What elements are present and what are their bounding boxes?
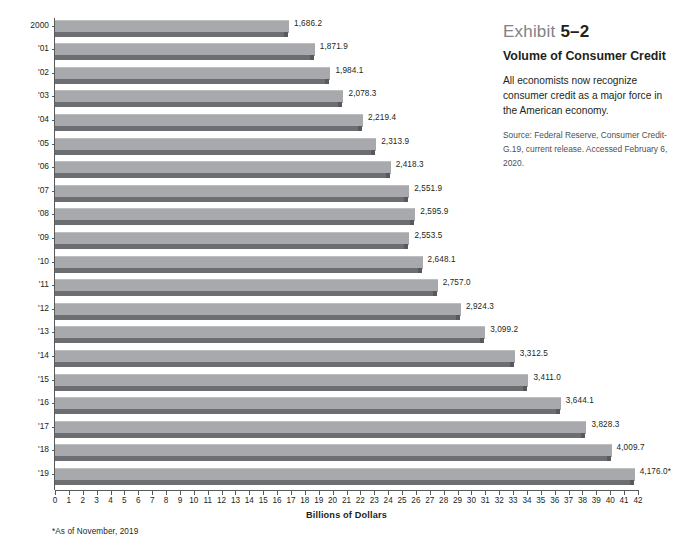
x-axis-tick <box>347 490 348 495</box>
x-axis-tick <box>499 490 500 495</box>
bar-row: '072,551.9 <box>55 183 638 207</box>
bar-shadow <box>55 362 510 367</box>
y-axis-tick-label: '09 <box>38 232 49 242</box>
bar-value-label: 2,078.3 <box>348 89 376 98</box>
x-axis-tick-label: 34 <box>522 496 531 505</box>
bar-value-label: 2,553.5 <box>414 231 442 240</box>
y-axis-tick-label: '08 <box>38 208 49 218</box>
bar-end-cap <box>607 456 611 461</box>
bar-row: '122,924.3 <box>55 301 638 325</box>
x-axis-tick-label: 5 <box>122 496 127 505</box>
bar-value-label: 2,313.9 <box>381 137 409 146</box>
bar-end-cap <box>581 433 585 438</box>
x-axis-tick-label: 23 <box>370 496 379 505</box>
x-axis-tick-label: 13 <box>231 496 240 505</box>
x-axis-tick-label: 7 <box>150 496 155 505</box>
y-axis-tick-label: '06 <box>38 161 49 171</box>
bar-shadow <box>55 268 418 273</box>
x-axis-tick <box>638 490 639 495</box>
y-axis-tick-label: '17 <box>38 421 49 431</box>
y-axis-tick-label: '16 <box>38 397 49 407</box>
caption-source: Source: Federal Reserve, Consumer Credit… <box>503 129 675 170</box>
bar-chart: 20001,686.2'011,871.9'021,984.1'032,078.… <box>0 0 480 557</box>
bar-end-cap <box>456 315 460 320</box>
bar-shadow <box>55 150 371 155</box>
bar-shadow <box>55 55 310 60</box>
bar-value-label: 3,644.1 <box>566 396 594 405</box>
x-axis-tick <box>194 490 195 495</box>
x-axis-tick-label: 22 <box>356 496 365 505</box>
x-axis-tick-label: 8 <box>164 496 169 505</box>
x-axis-tick-label: 20 <box>328 496 337 505</box>
y-axis-tick-label: '11 <box>39 279 49 289</box>
x-axis-tick <box>388 490 389 495</box>
bar-value-label: 3,411.0 <box>533 373 560 382</box>
y-axis-tick-label: '03 <box>38 90 49 100</box>
x-axis-tick <box>333 490 334 495</box>
bar-row: '173,828.3 <box>55 419 638 443</box>
bar-value-label: 3,828.3 <box>591 420 619 429</box>
x-axis-tick <box>416 490 417 495</box>
x-axis-tick <box>277 490 278 495</box>
x-axis-tick <box>208 490 209 495</box>
x-axis-tick-label: 35 <box>536 496 545 505</box>
bar-end-cap <box>523 386 527 391</box>
bar-value-label: 2,595.9 <box>420 207 448 216</box>
bar-shadow <box>55 220 410 225</box>
bar-value-label: 1,686.2 <box>294 19 322 28</box>
bar-shadow <box>55 79 325 84</box>
bar-row: '102,648.1 <box>55 254 638 278</box>
bar-row: '194,176.0* <box>55 466 638 490</box>
bar-row: '112,757.0 <box>55 278 638 302</box>
bar-value-label: 3,099.2 <box>490 325 518 334</box>
exhibit-number: 5–2 <box>560 22 589 41</box>
x-axis-tick-label: 36 <box>550 496 559 505</box>
y-axis-tick-label: '07 <box>38 185 49 195</box>
x-axis-tick <box>527 490 528 495</box>
x-axis-tick-label: 17 <box>286 496 295 505</box>
x-axis-tick <box>69 490 70 495</box>
x-axis-tick <box>485 490 486 495</box>
bar-shadow <box>55 102 338 107</box>
y-axis-tick-label: '18 <box>38 444 49 454</box>
bar-end-cap <box>325 79 329 84</box>
x-axis-tick-label: 18 <box>300 496 309 505</box>
bar-shadow <box>55 244 404 249</box>
y-axis-tick-label: 2000 <box>30 20 49 30</box>
x-axis-tick <box>97 490 98 495</box>
x-axis-tick <box>624 490 625 495</box>
x-axis-tick <box>235 490 236 495</box>
bar-end-cap <box>386 173 390 178</box>
bar-shadow <box>55 456 607 461</box>
x-axis-tick-label: 12 <box>217 496 226 505</box>
bar-shadow <box>55 409 556 414</box>
x-axis-tick-label: 15 <box>259 496 268 505</box>
x-axis-tick <box>291 490 292 495</box>
x-axis-tick-label: 30 <box>467 496 476 505</box>
x-axis-tick <box>166 490 167 495</box>
bar-shadow <box>55 32 284 37</box>
bar-row: '153,411.0 <box>55 372 638 396</box>
x-axis-tick-label: 28 <box>439 496 448 505</box>
x-axis-tick <box>471 490 472 495</box>
x-axis-tick-label: 37 <box>564 496 573 505</box>
caption-body: All economists now recognize consumer cr… <box>503 74 675 118</box>
x-axis-tick-label: 14 <box>245 496 254 505</box>
x-axis-tick-label: 3 <box>94 496 99 505</box>
y-axis-tick-label: '04 <box>38 114 49 124</box>
bar-value-label: 1,984.1 <box>335 66 363 75</box>
chart-footnote: *As of November, 2019 <box>52 527 138 536</box>
x-axis-tick <box>111 490 112 495</box>
x-axis-tick <box>582 490 583 495</box>
x-axis-tick <box>180 490 181 495</box>
x-axis-tick-label: 26 <box>411 496 420 505</box>
bar-value-label: 2,219.4 <box>368 113 396 122</box>
x-axis-tick-label: 1 <box>67 496 72 505</box>
x-axis-tick-label: 21 <box>342 496 351 505</box>
bar-shadow <box>55 480 630 485</box>
x-axis-tick <box>458 490 459 495</box>
x-axis-tick-label: 11 <box>203 496 212 505</box>
bar-end-cap <box>404 197 408 202</box>
x-axis-tick <box>610 490 611 495</box>
x-axis-tick-label: 16 <box>273 496 282 505</box>
